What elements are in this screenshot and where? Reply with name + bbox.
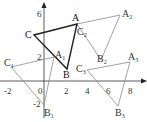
vertex-label-b1: B1 xyxy=(44,107,54,119)
coordinate-plane: -2 0 2 4 6 8 6 2 -2 A B C A1 B1 C1 A2 B2… xyxy=(0,0,147,122)
x-tick: 2 xyxy=(64,86,69,96)
x-axis-arrow-icon xyxy=(141,79,147,84)
vertex-label-c3: C3 xyxy=(76,63,86,75)
x-tick: 4 xyxy=(85,86,90,96)
vertex-label-c1: C1 xyxy=(4,57,14,69)
triangle-a3b3c3 xyxy=(87,62,130,106)
vertex-label-a1: A1 xyxy=(55,49,65,61)
vertex-label-b2: B2 xyxy=(97,53,107,65)
diagram: -2 0 2 4 6 8 6 2 -2 A B C A1 B1 C1 A2 B2… xyxy=(0,0,147,122)
y-tick: 6 xyxy=(37,9,42,19)
origin-label: 0 xyxy=(38,86,43,96)
x-tick: -2 xyxy=(4,86,12,96)
vertex-label-c2: C2 xyxy=(77,26,87,38)
x-tick: 8 xyxy=(128,86,133,96)
vertex-label-a: A xyxy=(72,12,80,23)
triangle-abc xyxy=(34,24,77,69)
y-axis-arrow-icon xyxy=(42,2,47,8)
vertex-label-b3: B3 xyxy=(115,107,125,119)
vertex-label-c: C xyxy=(25,29,32,40)
y-tick: -2 xyxy=(33,99,41,109)
vertex-label-a2: A2 xyxy=(122,8,132,20)
vertex-label-b: B xyxy=(63,69,70,80)
vertex-label-a3: A3 xyxy=(128,51,138,63)
